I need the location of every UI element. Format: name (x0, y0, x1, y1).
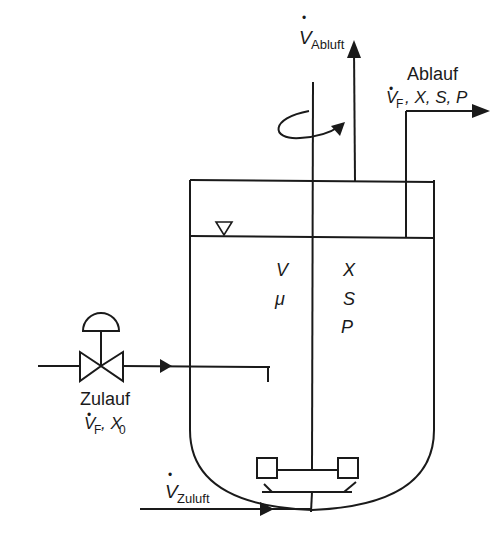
svg-text:S: S (343, 289, 355, 309)
vessel-variables-left: V μ (274, 260, 290, 309)
exhaust-air-outlet (347, 40, 361, 181)
svg-text:X: X (342, 260, 356, 280)
label-exhaust-air: • V Abluft (299, 11, 345, 52)
svg-text:, X, S, P: , X, S, P (405, 88, 468, 107)
impeller-blade-right (338, 458, 358, 478)
svg-text:0: 0 (119, 423, 126, 437)
label-inflow: Zulauf • V F , X 0 (80, 389, 131, 437)
liquid-level-icon (216, 222, 232, 235)
svg-text:V: V (276, 260, 290, 280)
svg-text:P: P (341, 317, 353, 337)
valve-left-icon (80, 352, 101, 381)
svg-text:•: • (302, 11, 306, 25)
arrow-right-icon (472, 104, 490, 118)
agitator (257, 82, 358, 478)
valve-actuator-icon (83, 313, 119, 331)
valve-right-icon (101, 352, 123, 381)
rotation-icon (279, 111, 340, 138)
label-supply-air: • V Zuluft (165, 468, 210, 506)
arrow-up-icon (347, 40, 361, 58)
supply-air-line (140, 502, 312, 516)
impeller-blade-left (257, 458, 277, 478)
svg-text:Zuluft: Zuluft (177, 491, 210, 506)
svg-text:μ: μ (274, 289, 285, 309)
vessel-variables-right: X S P (341, 260, 356, 337)
svg-text:Ablauf: Ablauf (407, 64, 459, 84)
inflow-line (38, 313, 270, 382)
svg-text:Zulauf: Zulauf (80, 389, 131, 409)
svg-text:•: • (168, 468, 172, 482)
agitator-shaft (312, 82, 313, 470)
bioreactor-diagram: • V Abluft Ablauf • V F , X, S, P Zulauf… (0, 0, 496, 547)
arrow-right-icon (160, 359, 172, 373)
label-outflow: Ablauf • V F , X, S, P (386, 64, 468, 111)
svg-text:Abluft: Abluft (311, 37, 345, 52)
svg-text:F: F (396, 97, 403, 111)
outflow-pipe (406, 104, 490, 237)
